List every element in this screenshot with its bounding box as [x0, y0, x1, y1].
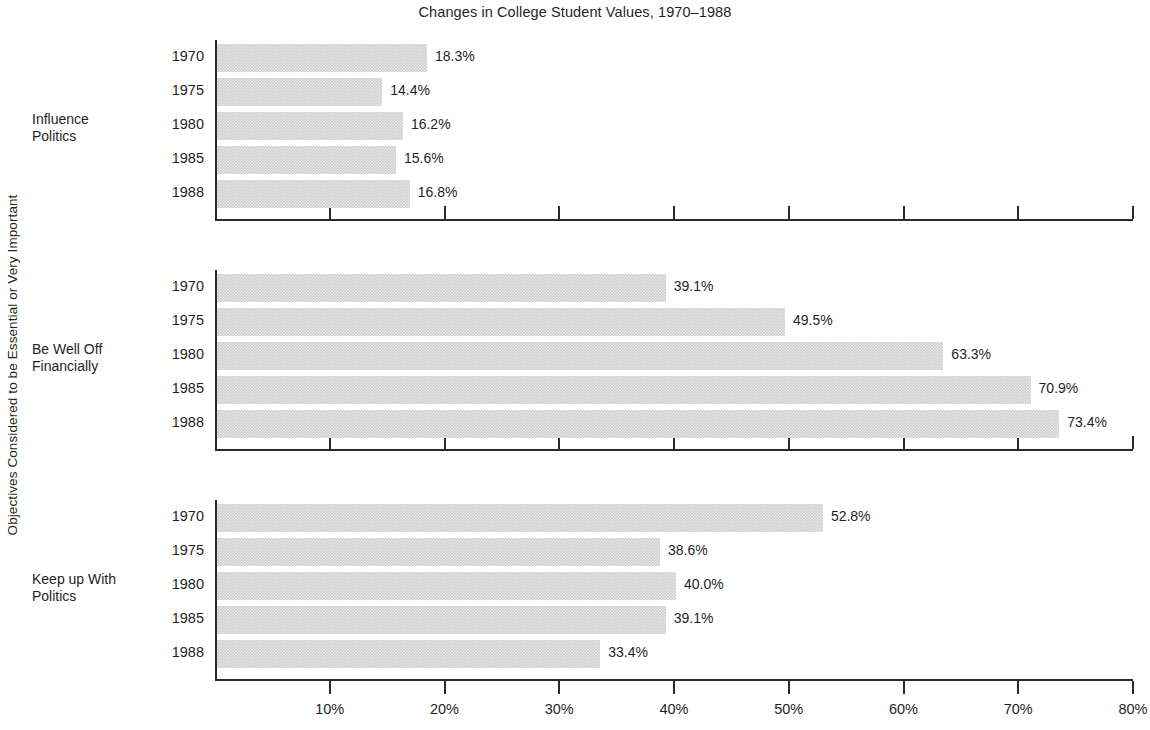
bar-value-label: 39.1%: [674, 610, 714, 626]
bar-value-label: 38.6%: [668, 542, 708, 558]
x-axis-tick-40: [673, 206, 675, 219]
x-axis-tick-70: [1017, 681, 1019, 694]
x-axis-tick-30: [558, 206, 560, 219]
x-axis-tick-80: [1132, 206, 1134, 219]
category-tick-label: 1980: [158, 346, 204, 362]
bar-value-label: 52.8%: [831, 508, 871, 524]
category-tick-label: 1985: [158, 610, 204, 626]
x-axis-tick-80: [1132, 681, 1134, 694]
chart-title: Changes in College Student Values, 1970–…: [0, 4, 1150, 20]
x-axis-tick-label-40: 40%: [644, 701, 704, 717]
bar-influence-politics-1988: [217, 180, 410, 208]
bar-value-label: 15.6%: [404, 150, 444, 166]
category-tick-label: 1970: [158, 278, 204, 294]
x-axis-tick-label-70: 70%: [988, 701, 1048, 717]
bar-influence-politics-1975: [217, 78, 382, 106]
bar-value-label: 39.1%: [674, 278, 714, 294]
x-axis-tick-20: [444, 206, 446, 219]
bar-value-label: 33.4%: [608, 644, 648, 660]
bar-be-well-off-financially-1970: [217, 274, 666, 302]
x-axis-tick-60: [903, 206, 905, 219]
bar-influence-politics-1970: [217, 44, 427, 72]
x-axis-tick-label-50: 50%: [759, 701, 819, 717]
bar-keep-up-with-politics-1970: [217, 504, 823, 532]
category-tick-label: 1970: [158, 508, 204, 524]
category-tick-label: 1975: [158, 82, 204, 98]
bar-be-well-off-financially-1980: [217, 342, 943, 370]
x-axis-tick-label-60: 60%: [874, 701, 934, 717]
category-tick-label: 1980: [158, 576, 204, 592]
y-axis-label: Objectives Considered to be Essential or…: [2, 0, 22, 730]
value-axis-baseline: [215, 449, 1133, 451]
x-axis-tick-40: [673, 681, 675, 694]
x-axis-tick-label-10: 10%: [300, 701, 360, 717]
x-axis-tick-30: [558, 681, 560, 694]
bar-keep-up-with-politics-1988: [217, 640, 600, 668]
bar-value-label: 40.0%: [684, 576, 724, 592]
category-tick-label: 1985: [158, 380, 204, 396]
x-axis-tick-label-20: 20%: [415, 701, 475, 717]
bar-value-label: 16.8%: [418, 184, 458, 200]
category-tick-label: 1985: [158, 150, 204, 166]
category-tick-label: 1988: [158, 644, 204, 660]
bar-value-label: 18.3%: [435, 48, 475, 64]
category-tick-label: 1980: [158, 116, 204, 132]
x-axis-tick-60: [903, 681, 905, 694]
bar-be-well-off-financially-1975: [217, 308, 785, 336]
bar-keep-up-with-politics-1980: [217, 572, 676, 600]
x-axis-tick-label-80: 80%: [1103, 701, 1150, 717]
bar-be-well-off-financially-1985: [217, 376, 1031, 404]
bar-be-well-off-financially-1988: [217, 410, 1059, 438]
bar-influence-politics-1980: [217, 112, 403, 140]
category-tick-label: 1975: [158, 542, 204, 558]
category-tick-label: 1988: [158, 184, 204, 200]
bar-keep-up-with-politics-1985: [217, 606, 666, 634]
chart-figure: Changes in College Student Values, 1970–…: [0, 0, 1150, 730]
category-tick-label: 1970: [158, 48, 204, 64]
y-axis-label-text: Objectives Considered to be Essential or…: [5, 195, 20, 536]
bar-value-label: 14.4%: [390, 82, 430, 98]
x-axis-tick-50: [788, 681, 790, 694]
x-axis-tick-70: [1017, 206, 1019, 219]
category-tick-label: 1988: [158, 414, 204, 430]
x-axis-tick-10: [329, 681, 331, 694]
value-axis-baseline: [215, 219, 1133, 221]
x-axis-tick-label-30: 30%: [529, 701, 589, 717]
bar-influence-politics-1985: [217, 146, 396, 174]
x-axis-tick-20: [444, 681, 446, 694]
bar-value-label: 16.2%: [411, 116, 451, 132]
x-axis-tick-80: [1132, 436, 1134, 449]
bar-value-label: 49.5%: [793, 312, 833, 328]
bar-value-label: 73.4%: [1067, 414, 1107, 430]
x-axis-tick-50: [788, 206, 790, 219]
category-tick-label: 1975: [158, 312, 204, 328]
bar-keep-up-with-politics-1975: [217, 538, 660, 566]
bar-value-label: 63.3%: [951, 346, 991, 362]
bar-value-label: 70.9%: [1039, 380, 1079, 396]
